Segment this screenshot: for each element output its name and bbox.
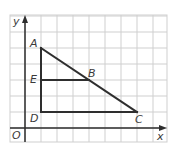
point-label-a: A — [29, 37, 38, 50]
coordinate-diagram: x y O A B C D E — [0, 0, 173, 153]
point-label-b: B — [88, 67, 96, 80]
y-axis-label: y — [12, 15, 20, 28]
point-label-c: C — [135, 113, 143, 126]
origin-label: O — [12, 129, 21, 142]
point-label-e: E — [30, 73, 37, 86]
point-label-d: D — [30, 112, 38, 125]
x-axis-label: x — [156, 130, 164, 143]
